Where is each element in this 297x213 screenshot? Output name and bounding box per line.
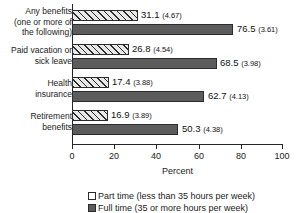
bar-value-part-time-health-insurance: 17.4 (3.88)	[112, 76, 153, 88]
x-tick-80	[241, 145, 242, 149]
bar-full-time-any-benefits	[72, 24, 233, 35]
x-axis-title: Percent	[72, 166, 283, 176]
bar-value-part-time-paid-vacation: 26.8 (4.54)	[132, 43, 173, 55]
bar-value-full-time-retirement-benefits: 50.3 (4.38)	[182, 123, 223, 135]
category-label-paid-vacation: Paid vacation or sick leave	[2, 45, 72, 66]
x-axis-line	[72, 144, 283, 145]
plot-area: 0 20 40 60 80 100 31.1 (4.67) 76.5 (3.61…	[72, 4, 283, 144]
bar-full-time-paid-vacation	[72, 58, 217, 69]
bar-value-number: 50.3	[182, 123, 201, 134]
x-tick-label-100: 100	[274, 151, 289, 161]
bar-value-number: 16.9	[111, 109, 130, 120]
bar-value-se: (3.61)	[258, 25, 278, 34]
bar-value-number: 62.7	[208, 90, 227, 101]
bar-full-time-retirement-benefits	[72, 124, 178, 135]
category-label-health-insurance: Health insurance	[2, 78, 72, 99]
bar-value-part-time-retirement-benefits: 16.9 (3.89)	[111, 109, 152, 121]
bar-part-time-retirement-benefits	[72, 110, 108, 121]
legend-swatch-part-time-icon	[88, 192, 96, 200]
legend-swatch-full-time-icon	[88, 204, 96, 212]
bar-part-time-paid-vacation	[72, 44, 129, 55]
bar-chart: Any benefits (one or more of the followi…	[0, 0, 297, 213]
x-tick-60	[199, 145, 200, 149]
bar-value-se: (4.54)	[153, 45, 173, 54]
category-label-any-benefits: Any benefits (one or more of the followi…	[2, 6, 72, 38]
x-tick-label-80: 80	[236, 151, 246, 161]
bar-value-se: (3.88)	[133, 78, 153, 87]
bar-value-se: (4.38)	[203, 125, 223, 134]
x-tick-label-60: 60	[194, 151, 204, 161]
x-tick-100	[282, 145, 283, 149]
bar-value-se: (3.89)	[132, 111, 152, 120]
legend-label-part-time: Part time (less than 35 hours per week)	[98, 191, 255, 201]
bar-value-part-time-any-benefits: 31.1 (4.67)	[141, 9, 182, 21]
bar-value-se: (3.98)	[241, 59, 261, 68]
legend: Part time (less than 35 hours per week) …	[88, 190, 297, 213]
bar-value-full-time-health-insurance: 62.7 (4.13)	[208, 90, 249, 102]
bar-value-se: (4.67)	[162, 11, 182, 20]
bar-value-number: 31.1	[141, 9, 160, 20]
bar-value-number: 68.5	[220, 57, 239, 68]
bar-full-time-health-insurance	[72, 91, 204, 102]
legend-label-full-time: Full time (35 or more hours per week)	[98, 203, 248, 213]
x-tick-label-0: 0	[69, 151, 74, 161]
legend-item-part-time: Part time (less than 35 hours per week)	[88, 190, 297, 201]
x-tick-label-40: 40	[151, 151, 161, 161]
bar-value-number: 26.8	[132, 43, 151, 54]
bar-part-time-any-benefits	[72, 10, 138, 21]
bar-part-time-health-insurance	[72, 77, 109, 88]
x-tick-20	[114, 145, 115, 149]
x-tick-0	[72, 145, 73, 149]
category-label-retirement-benefits: Retirement benefits	[2, 111, 72, 132]
bar-value-number: 17.4	[112, 76, 131, 87]
bar-value-se: (4.13)	[229, 92, 249, 101]
legend-item-full-time: Full time (35 or more hours per week)	[88, 202, 297, 213]
bar-value-number: 76.5	[237, 23, 256, 34]
bar-value-full-time-paid-vacation: 68.5 (3.98)	[220, 57, 261, 69]
bar-value-full-time-any-benefits: 76.5 (3.61)	[237, 23, 278, 35]
x-tick-40	[156, 145, 157, 149]
x-tick-label-20: 20	[109, 151, 119, 161]
